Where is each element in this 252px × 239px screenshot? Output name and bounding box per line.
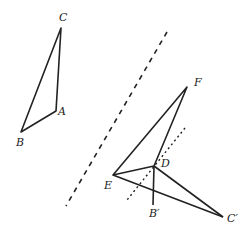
label-a: A	[58, 106, 66, 117]
label-c: C	[59, 12, 67, 23]
label-f: F	[194, 77, 202, 88]
geometry-diagram: C A B F D E B′ C′	[0, 0, 252, 239]
triangle-efd	[113, 87, 187, 175]
label-c-prime: C′	[227, 213, 238, 224]
diagram-svg	[0, 0, 252, 239]
segment-d-cprime	[154, 166, 223, 217]
label-b-prime: B′	[149, 208, 160, 219]
label-e: E	[104, 180, 112, 191]
label-b: B	[16, 137, 24, 148]
dotted-line-through-d	[127, 128, 185, 200]
reflection-line	[66, 32, 167, 206]
segment-e-cprime	[113, 175, 223, 217]
segment-d-bprime	[153, 166, 154, 205]
label-d: D	[161, 158, 170, 169]
triangle-abc	[21, 28, 61, 132]
